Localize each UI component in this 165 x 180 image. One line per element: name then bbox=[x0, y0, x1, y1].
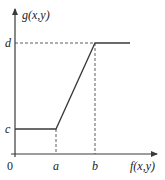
origin-label: 0 bbox=[7, 159, 13, 173]
y-axis-label: g(x,y) bbox=[22, 8, 50, 22]
x-tick-b: b bbox=[92, 159, 98, 173]
x-axis-label: f(x,y) bbox=[130, 159, 155, 173]
y-tick-d: d bbox=[5, 36, 12, 50]
x-tick-a: a bbox=[53, 159, 59, 173]
transform-curve bbox=[15, 43, 130, 129]
transform-diagram: g(x,y) f(x,y) 0 a b c d bbox=[0, 0, 165, 180]
diagram-canvas: g(x,y) f(x,y) 0 a b c d bbox=[0, 0, 165, 180]
y-tick-c: c bbox=[5, 122, 11, 136]
